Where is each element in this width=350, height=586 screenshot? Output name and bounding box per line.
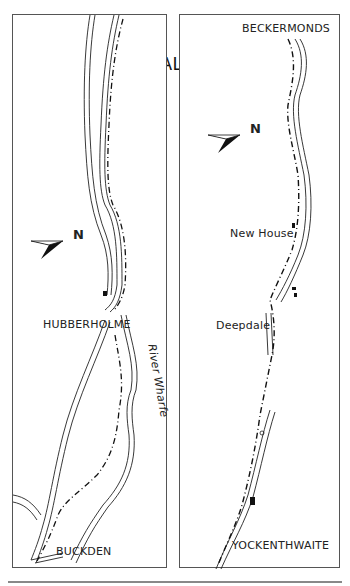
place-label-yockenthwaite: YOCKENTHWAITE bbox=[232, 539, 329, 552]
map-panel-right: BECKERMONDS N New House Deepdale YOCKENT… bbox=[179, 14, 340, 568]
place-label-deepdale: Deepdale bbox=[216, 319, 270, 332]
place-label-hubberholme: HUBBERHOLME bbox=[43, 318, 131, 331]
map-panel-left: N HUBBERHOLME BUCKDEN River Wharfe bbox=[12, 14, 167, 568]
north-label: N bbox=[73, 227, 84, 242]
north-arrow-icon bbox=[206, 127, 256, 157]
north-label: N bbox=[250, 121, 261, 136]
map-lines-right bbox=[180, 15, 341, 569]
north-arrow-icon bbox=[29, 233, 79, 263]
map-lines-left bbox=[13, 15, 168, 569]
place-label-beckermonds: BECKERMONDS bbox=[242, 22, 330, 35]
place-label-new-house: New House bbox=[230, 227, 294, 240]
bottom-rule bbox=[8, 581, 342, 583]
place-label-buckden: BUCKDEN bbox=[56, 545, 112, 558]
